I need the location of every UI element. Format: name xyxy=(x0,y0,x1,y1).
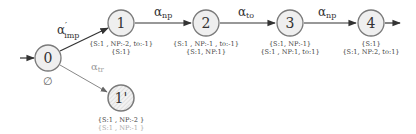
edge-label-2-3: αto xyxy=(238,5,254,20)
svg-text:0: 0 xyxy=(44,50,53,66)
state-3-annotation-line1: {S:1, NP:-1} xyxy=(269,40,311,48)
state-2: 2 {S:1 , NP:-1 , to:-1} {S:1, NP:1} xyxy=(173,10,239,56)
state-4: 4 {S:1} {S:1, NP:2, to:1} xyxy=(342,10,399,56)
state-4-annotation-line1: {S:1} xyxy=(361,40,380,48)
state-1-annotation-line2: {S:1} xyxy=(111,48,130,56)
state-3-annotation-line2: {S:1 , NP:1, to:1} xyxy=(260,48,319,56)
svg-text:4: 4 xyxy=(367,15,376,31)
state-3: 3 {S:1, NP:-1} {S:1 , NP:1, to:1} xyxy=(260,10,319,56)
edge-label-1-2: αnp xyxy=(154,5,172,20)
svg-text:2: 2 xyxy=(202,15,211,31)
state-1-annotation-line1: {S:1 , NP:-2, to:-1} xyxy=(89,40,153,48)
state-1-prime-annotation-line2: {S:1 , NP:-1 } xyxy=(98,124,144,132)
edge-label-0-1: α′imp xyxy=(57,21,79,40)
state-2-annotation-line2: {S:1, NP:1} xyxy=(186,48,226,56)
svg-text:1': 1' xyxy=(115,90,128,106)
edge-label-3-4: αnp xyxy=(318,5,336,20)
state-diagram: α′imp αnp αto αnp αtr 0 ∅ 1 {S:1 , NP:-2… xyxy=(0,0,416,134)
svg-text:1: 1 xyxy=(117,15,126,31)
state-0-annotation: ∅ xyxy=(43,75,53,88)
svg-text:3: 3 xyxy=(286,15,295,31)
state-2-annotation-line1: {S:1 , NP:-1 , to:-1} xyxy=(173,40,239,48)
state-1-prime: 1' {S:1 , NP:-2 } {S:1 , NP:-1 } xyxy=(98,85,144,132)
edge-label-0-1p: αtr xyxy=(91,61,105,74)
state-0: 0 ∅ xyxy=(35,45,61,88)
state-4-annotation-line2: {S:1, NP:2, to:1} xyxy=(342,48,399,56)
state-1-prime-annotation-line1: {S:1 , NP:-2 } xyxy=(98,116,144,124)
